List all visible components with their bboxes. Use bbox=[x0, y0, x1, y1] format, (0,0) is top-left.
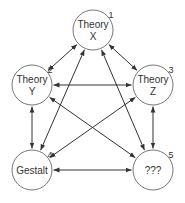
node-number: 3 bbox=[169, 65, 174, 75]
node-label: Theory bbox=[137, 74, 168, 85]
node-number: 5 bbox=[169, 150, 174, 160]
node-label: Theory bbox=[16, 74, 47, 85]
node-number: 2 bbox=[48, 65, 53, 75]
node-5: ???5 bbox=[133, 150, 174, 190]
node-label: Z bbox=[150, 86, 156, 97]
node-number: 4 bbox=[48, 150, 53, 160]
node-label: Gestalt bbox=[16, 165, 48, 176]
node-4: Gestalt4 bbox=[12, 150, 53, 190]
node-3: TheoryZ3 bbox=[133, 65, 174, 105]
node-number: 1 bbox=[109, 10, 114, 20]
node-2: TheoryY2 bbox=[12, 65, 53, 105]
theory-network-diagram: TheoryX1TheoryY2TheoryZ3Gestalt4???5 bbox=[0, 0, 185, 203]
node-label: X bbox=[90, 31, 97, 42]
nodes-layer: TheoryX1TheoryY2TheoryZ3Gestalt4???5 bbox=[12, 10, 174, 190]
node-label: Y bbox=[29, 86, 36, 97]
node-label: ??? bbox=[145, 165, 162, 176]
node-label: Theory bbox=[77, 19, 108, 30]
node-1: TheoryX1 bbox=[73, 10, 114, 50]
edge-1-3 bbox=[109, 45, 137, 71]
edge-1-5 bbox=[101, 50, 144, 150]
